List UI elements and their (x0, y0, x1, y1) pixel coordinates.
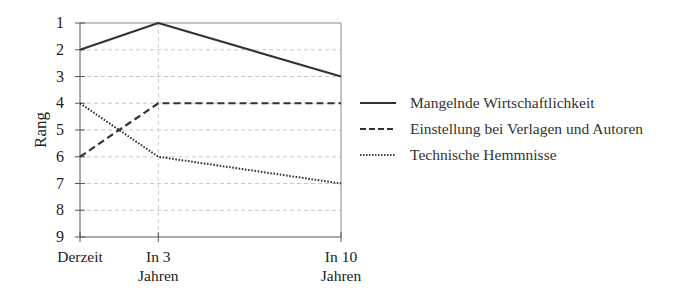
solid-line-swatch-icon (358, 98, 398, 108)
series-line-solid (80, 23, 341, 77)
legend-item-einstellung: Einstellung bei Verlagen und Autoren (358, 116, 643, 142)
x-tick-label: In 10 (325, 248, 358, 265)
dashed-line-swatch-icon (358, 124, 398, 134)
legend-item-wirtschaftlichkeit: Mangelnde Wirtschaftlichkeit (358, 90, 643, 116)
series-lines (80, 23, 341, 184)
x-tick-label: Jahren (321, 267, 362, 284)
legend: Mangelnde Wirtschaftlichkeit Einstellung… (358, 90, 643, 168)
y-tick-label: 1 (56, 14, 64, 31)
y-tick-label: 2 (56, 41, 64, 58)
x-tick-label: Jahren (138, 267, 179, 284)
dotted-line-swatch-icon (358, 150, 398, 160)
x-tick-label: In 3 (146, 248, 171, 265)
y-tick-label: 6 (56, 148, 64, 165)
y-tick-label: 3 (56, 68, 64, 85)
y-tick-label: 9 (56, 228, 64, 245)
series-line-dashed (80, 103, 341, 157)
legend-item-technik: Technische Hemmnisse (358, 142, 643, 168)
x-axis-ticks: DerzeitIn 3JahrenIn 10Jahren (57, 232, 361, 284)
legend-label: Mangelnde Wirtschaftlichkeit (410, 94, 595, 112)
legend-label: Einstellung bei Verlagen und Autoren (410, 120, 643, 138)
x-tick-label: Derzeit (57, 248, 103, 265)
y-axis-label: Rang (31, 112, 50, 148)
y-tick-label: 8 (56, 201, 64, 218)
y-tick-label: 7 (56, 175, 64, 192)
y-tick-label: 5 (56, 121, 64, 138)
series-line-dotted (80, 103, 341, 183)
y-tick-label: 4 (56, 94, 64, 111)
legend-label: Technische Hemmnisse (410, 146, 557, 164)
